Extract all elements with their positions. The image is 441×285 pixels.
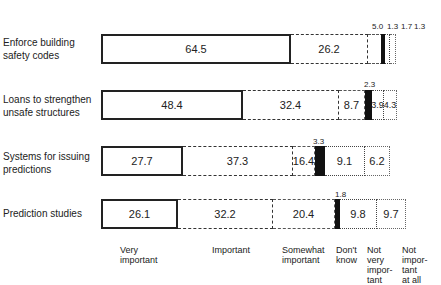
segment-somewhat-important: 8.7 — [339, 90, 365, 120]
segment-not-important-at-all: 9.7 — [377, 199, 406, 229]
bar-loans: 48.4 32.4 8.7 3.9 4.3 — [101, 90, 406, 120]
segment-value: 64.5 — [185, 43, 206, 55]
top-label-dont-know: 1.8 — [335, 190, 346, 199]
segment-value: 3.9 — [371, 100, 384, 110]
legend-line: impor- — [402, 255, 428, 265]
segment-value: 37.3 — [227, 155, 248, 167]
segment-not-important-at-all — [390, 34, 396, 64]
row-label-prediction-studies: Prediction studies — [3, 207, 82, 220]
segment-value: 48.4 — [161, 99, 182, 111]
segment-value: 9.1 — [337, 155, 352, 167]
segment-value: 8.7 — [344, 99, 359, 111]
segment-value: 27.7 — [131, 155, 152, 167]
segment-not-important-at-all: 4.3 — [384, 90, 397, 120]
legend-line: impor- — [367, 265, 393, 275]
segment-very-important: 27.7 — [101, 146, 183, 176]
segment-dont-know — [315, 146, 325, 176]
segment-important: 37.3 — [183, 146, 293, 176]
segment-very-important: 26.1 — [101, 199, 178, 229]
legend-line: at all — [402, 275, 428, 285]
row-label-line: Loans to strengthen — [3, 93, 91, 106]
segment-value: 6.2 — [369, 155, 384, 167]
segment-value: 9.7 — [383, 208, 398, 220]
top-label-dont-know: 2.3 — [364, 80, 375, 89]
segment-important: 32.2 — [178, 199, 273, 229]
legend-line: important — [120, 255, 158, 265]
segment-not-very-important: 9.1 — [325, 146, 365, 176]
row-label-line: Systems for issuing — [3, 150, 90, 163]
legend-line: tant — [402, 265, 428, 275]
legend-very-important: Very important — [120, 245, 158, 265]
segment-important: 26.2 — [291, 34, 368, 64]
bar-enforce-codes: 64.5 26.2 — [101, 34, 396, 64]
top-label-somewhat: 5.0 — [372, 22, 383, 31]
legend-line: Not — [367, 245, 393, 255]
top-label-not-at-all: 1.3 — [414, 22, 425, 31]
segment-important: 32.4 — [243, 90, 339, 120]
legend-line: very — [367, 255, 393, 265]
row-label-line: Enforce building — [3, 36, 75, 49]
segment-value: 32.2 — [214, 208, 235, 220]
legend-line: know — [336, 255, 357, 265]
top-label-dont-know: 1.3 — [387, 22, 398, 31]
legend-line: tant — [367, 275, 393, 285]
segment-not-very-important: 9.8 — [340, 199, 377, 229]
segment-value: 16.4 — [293, 155, 314, 167]
legend-line: Important — [212, 245, 250, 255]
segment-value: 26.1 — [129, 208, 150, 220]
segment-value: 32.4 — [280, 99, 301, 111]
legend-line: Very — [120, 245, 158, 255]
segment-very-important: 64.5 — [101, 34, 291, 64]
segment-somewhat-important: 20.4 — [273, 199, 335, 229]
top-label-dont-know: 3.3 — [313, 137, 324, 146]
segment-value: 4.3 — [384, 100, 397, 110]
segment-somewhat-important: 16.4 — [293, 146, 315, 176]
top-label-not-very: 1.7 — [401, 22, 412, 31]
segment-value: 20.4 — [293, 208, 314, 220]
row-label-line: safety codes — [3, 49, 75, 62]
legend-important: Important — [212, 245, 250, 255]
legend-dont-know: Don't know — [336, 245, 357, 265]
segment-value: 9.8 — [350, 208, 365, 220]
bar-prediction-studies: 26.1 32.2 20.4 9.8 9.7 — [101, 199, 406, 229]
segment-very-important: 48.4 — [101, 90, 243, 120]
legend-line: Not — [402, 245, 428, 255]
row-label-line: Prediction studies — [3, 207, 82, 220]
segment-not-important-at-all: 6.2 — [365, 146, 390, 176]
legend-line: Somewhat — [282, 245, 325, 255]
segment-value: 26.2 — [318, 43, 339, 55]
bar-systems: 27.7 37.3 16.4 9.1 6.2 — [101, 146, 396, 176]
row-label-enforce-codes: Enforce building safety codes — [3, 36, 75, 62]
legend-somewhat-important: Somewhat important — [282, 245, 325, 265]
row-label-systems: Systems for issuing predictions — [3, 150, 90, 176]
legend-line: important — [282, 255, 325, 265]
legend-not-important-at-all: Not impor- tant at all — [402, 245, 428, 285]
row-label-loans: Loans to strengthen unsafe structures — [3, 93, 91, 119]
segment-not-very-important: 3.9 — [372, 90, 384, 120]
legend-line: Don't — [336, 245, 357, 255]
row-label-line: unsafe structures — [3, 106, 91, 119]
row-label-line: predictions — [3, 163, 90, 176]
legend-not-very-important: Not very impor- tant — [367, 245, 393, 285]
